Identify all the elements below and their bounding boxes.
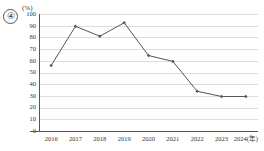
series-line — [51, 23, 246, 97]
data-point-marker — [220, 95, 223, 98]
data-point-marker — [244, 95, 247, 98]
series-markers — [49, 21, 247, 98]
data-series-layer — [0, 0, 264, 151]
chart-figure: ④ (%) 0102030405060708090100 20162017201… — [0, 0, 264, 151]
